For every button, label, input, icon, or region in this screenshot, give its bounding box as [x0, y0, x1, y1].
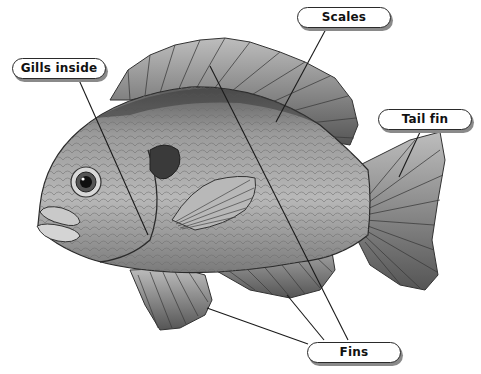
leader-fins-pelvic: [207, 308, 308, 344]
fish-eye: [71, 167, 101, 197]
label-fins: Fins: [307, 342, 401, 363]
label-gills-inside: Gills inside: [12, 58, 106, 79]
fish-diagram: Gills inside Scales Tail fin Fins: [0, 0, 481, 374]
leader-fins-anal: [287, 295, 324, 340]
label-tail-fin: Tail fin: [378, 109, 472, 130]
pelvic-fin: [130, 268, 212, 330]
fish-illustration: [0, 0, 481, 374]
label-scales: Scales: [297, 7, 391, 28]
